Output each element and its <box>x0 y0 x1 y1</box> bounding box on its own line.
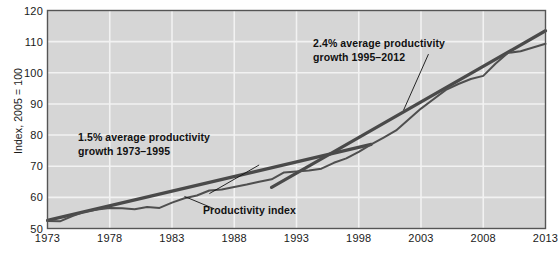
plot-area-svg <box>0 0 559 255</box>
x-axis-tick-label: 1998 <box>346 232 371 244</box>
annotation-growth-1973-1995: 1.5% average productivitygrowth 1973–199… <box>78 131 210 158</box>
x-axis-tick-label: 2013 <box>533 232 558 244</box>
annotation-productivity-index-label: Productivity index <box>203 204 296 216</box>
annotation-growth-1973-1995-line2: growth 1973–1995 <box>78 145 210 159</box>
annotation-growth-1995-2012: 2.4% average productivitygrowth 1995–201… <box>313 37 445 64</box>
annotation-growth-1995-2012-line2: growth 1995–2012 <box>313 51 445 65</box>
x-axis-tick-label: 2008 <box>471 232 496 244</box>
productivity-index-chart: 5060708090100110120 Index, 2005 = 100 19… <box>0 0 559 255</box>
annotation-growth-1995-2012-line1: 2.4% average productivity <box>313 37 445 51</box>
x-axis-tick-label: 1993 <box>284 232 309 244</box>
x-axis-tick-label: 1983 <box>159 232 184 244</box>
x-axis-tick-label: 2003 <box>408 232 433 244</box>
x-axis-tick-label: 1973 <box>35 232 60 244</box>
x-axis-tick-label: 1978 <box>97 232 122 244</box>
x-axis-tick-label: 1988 <box>222 232 247 244</box>
annotation-growth-1973-1995-line1: 1.5% average productivity <box>78 131 210 145</box>
